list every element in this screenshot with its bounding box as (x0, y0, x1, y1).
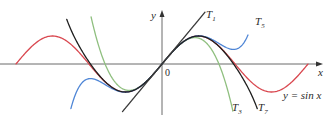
label-t5: T5 (255, 15, 265, 30)
taylor-polynomial-chart: x y 0 T1 T5 T3 T7 y = sin x (0, 0, 324, 115)
y-axis-label: y (150, 9, 156, 21)
curve-t1 (122, 12, 205, 111)
label-t7: T7 (258, 101, 268, 115)
x-axis-label: x (317, 66, 323, 78)
label-t3: T3 (232, 101, 242, 115)
origin-label: 0 (165, 67, 170, 78)
label-sin-x: y = sin x (282, 89, 321, 101)
label-t1: T1 (206, 8, 216, 23)
y-axis-arrow-icon (160, 10, 165, 17)
